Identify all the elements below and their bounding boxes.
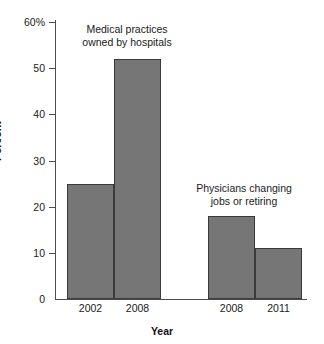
x-axis-title: Year: [0, 325, 324, 337]
y-tick-label-60: 60%: [0, 17, 45, 28]
y-tick-label-20: 20: [0, 202, 45, 213]
annotation-medical-practices: Medical practices owned by hospitals: [62, 23, 192, 48]
y-tick-label-0: 0: [0, 294, 45, 305]
x-tick-label-2011: 2011: [255, 303, 302, 314]
y-tick-label-50: 50: [0, 63, 45, 74]
annotation-physicians-changing: Physicians changing jobs or retiring: [176, 182, 312, 207]
y-axis-title: Percent: [0, 121, 3, 161]
bar-chart: 60% 50 40 30 20 10 0 Percent Year 2002 2…: [0, 0, 324, 344]
bar-2008-medical-practices: [114, 59, 161, 299]
plot-area: [56, 22, 306, 299]
x-tick-label-2008-a: 2008: [114, 303, 161, 314]
y-tick-label-10: 10: [0, 248, 45, 259]
y-tick-label-30: 30: [0, 156, 45, 167]
bar-2002-medical-practices: [67, 184, 114, 299]
x-tick-label-2008-b: 2008: [208, 303, 255, 314]
x-axis-line: [56, 299, 307, 300]
bar-2011-physicians-changing: [255, 248, 302, 299]
x-tick-label-2002-a: 2002: [67, 303, 114, 314]
bar-2008-physicians-changing: [208, 216, 255, 299]
y-tick-label-40: 40: [0, 109, 45, 120]
